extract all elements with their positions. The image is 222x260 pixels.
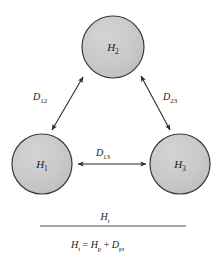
connector-d23: D23 [141, 76, 178, 130]
arrow-d12 [52, 77, 83, 130]
diagram-canvas: D12 D23 D13 H2 H1 [0, 0, 222, 260]
connector-d12: D12 [32, 77, 83, 130]
node-hill-1: H1 [12, 134, 72, 194]
label-d13: D13 [95, 147, 111, 161]
total-height-label: Ht [99, 211, 109, 225]
three-hill-diagram: D12 D23 D13 H2 H1 [0, 0, 222, 260]
node-hill-3: H3 [150, 134, 210, 194]
total-height-equation: Ht=Hp+Dpt [70, 239, 125, 253]
arrow-d23 [141, 76, 170, 130]
label-d23: D23 [162, 91, 178, 105]
total-height-bracket: Ht Ht=Hp+Dpt [40, 211, 186, 253]
connector-d13: D13 [78, 147, 146, 164]
label-d12: D12 [32, 91, 48, 105]
node-hill-2: H2 [82, 16, 144, 78]
